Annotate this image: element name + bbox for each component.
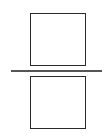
denominator-box [30, 76, 86, 129]
fraction-bar [11, 70, 102, 72]
numerator-box [30, 13, 86, 66]
